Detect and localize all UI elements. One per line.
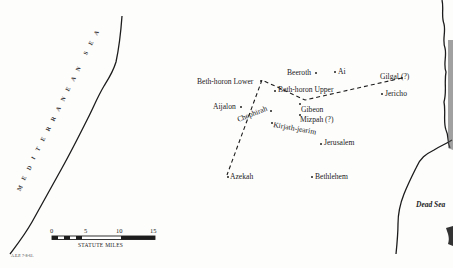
place-azekah: Azekah bbox=[230, 173, 253, 181]
scale-tick-10: 10 bbox=[116, 227, 123, 234]
dead-sea-label: Dead Sea bbox=[416, 200, 445, 209]
place-beeroth: Beeroth bbox=[287, 69, 311, 77]
map-figure: M E D I T E R R A N E A N S E A Beeroth … bbox=[0, 0, 453, 268]
place-ai: Ai bbox=[338, 68, 346, 76]
mediterranean-coastline bbox=[10, 16, 122, 254]
scale-bar bbox=[52, 236, 155, 240]
place-beth-horon-upper: Beth-horon Upper bbox=[278, 86, 333, 94]
scale-tick-0: 0 bbox=[50, 227, 53, 234]
place-jericho: Jericho bbox=[385, 90, 407, 98]
place-bethlehem: Bethlehem bbox=[315, 173, 348, 181]
place-gilgal: Gilgal (?) bbox=[380, 73, 409, 81]
place-jerusalem: Jerusalem bbox=[324, 139, 354, 147]
place-beth-horon-lower: Beth-horon Lower bbox=[197, 78, 253, 86]
place-mizpah: Mizpah (?) bbox=[300, 116, 334, 124]
scale-caption: STATUTE MILES bbox=[78, 242, 123, 248]
map-credit: A.E.P. 7-8-61. bbox=[11, 253, 34, 258]
place-gibeon: Gibeon bbox=[301, 106, 323, 114]
scale-tick-5: 5 bbox=[84, 227, 87, 234]
scale-tick-15: 15 bbox=[150, 227, 157, 234]
place-aijalon: Aijalon bbox=[213, 103, 236, 111]
map-linework bbox=[0, 0, 453, 268]
dead-sea-shore bbox=[396, 140, 452, 254]
